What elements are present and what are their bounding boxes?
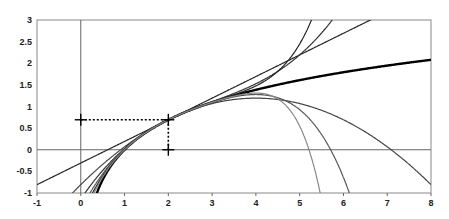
x-tick-label: 8 [428,198,433,208]
x-tick-label: 3 [210,198,215,208]
y-tick-label: 3 [27,15,32,25]
x-tick-label: 7 [385,198,390,208]
y-tick-label: 1 [27,102,32,112]
taylor-chart: -101234567832.521.510.50-0.5-1 [0,0,449,219]
x-tick-label: 0 [78,198,83,208]
y-tick-label: 0.5 [19,123,32,133]
x-tick-label: 1 [122,198,127,208]
y-tick-label: -0.5 [16,166,32,176]
y-tick-label: 1.5 [19,80,32,90]
x-tick-label: 6 [341,198,346,208]
x-tick-label: 4 [253,198,258,208]
x-tick-label: -1 [33,198,41,208]
x-tick-label: 5 [297,198,302,208]
y-tick-label: 0 [27,145,32,155]
x-tick-label: 2 [166,198,171,208]
y-tick-label: 2 [27,58,32,68]
y-tick-label: 2.5 [19,37,32,47]
y-tick-label: -1 [24,188,32,198]
plot-area [37,20,431,193]
